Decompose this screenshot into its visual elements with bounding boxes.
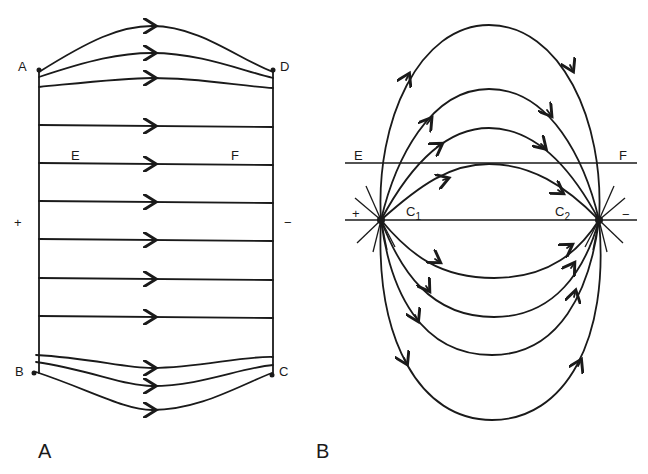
field-line <box>36 355 273 368</box>
label-d: D <box>280 59 289 74</box>
label-b: B <box>15 364 24 379</box>
field-lines-diagram: A D B C E F + − A <box>0 0 648 474</box>
field-line <box>381 220 599 278</box>
field-line <box>381 220 599 317</box>
label-f: F <box>619 148 627 163</box>
plus-sign: + <box>14 215 22 230</box>
label-c2: C2 <box>555 204 570 222</box>
minus-sign: − <box>284 215 292 230</box>
electrode-c1-rays <box>355 186 395 252</box>
field-line <box>380 220 600 420</box>
field-line <box>36 362 273 386</box>
label-c: C <box>279 364 288 379</box>
label-f: F <box>231 148 239 163</box>
minus-sign: − <box>622 207 630 222</box>
label-a: A <box>18 59 27 74</box>
panel-a-uniform-field: A D B C E F + − A <box>14 26 292 462</box>
panel-a-caption: A <box>38 440 52 462</box>
field-line <box>36 372 272 410</box>
field-line <box>39 78 273 88</box>
label-e: E <box>354 148 363 163</box>
panel-b-caption: B <box>316 440 329 462</box>
plus-sign: + <box>352 206 360 221</box>
field-line <box>39 53 273 78</box>
label-c1: C1 <box>406 204 421 222</box>
panel-b-point-electrodes: E F C1 C2 + − B <box>316 25 637 462</box>
label-e: E <box>71 148 80 163</box>
field-line <box>381 220 599 355</box>
field-line <box>381 89 599 220</box>
